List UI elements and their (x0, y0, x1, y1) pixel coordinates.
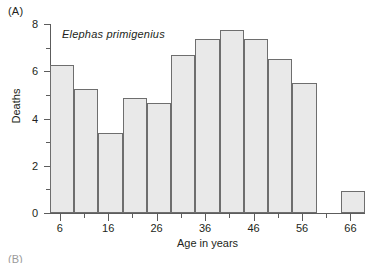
histogram-bar (171, 55, 195, 213)
histogram-bar (244, 39, 268, 213)
histogram-bar (147, 103, 171, 213)
y-tick-label: 0 (0, 208, 38, 218)
x-tick-major (302, 214, 303, 221)
histogram-bar (268, 59, 292, 213)
histogram-bar (74, 89, 98, 213)
x-tick-major (157, 214, 158, 221)
x-tick-minor (326, 214, 327, 218)
y-tick-label: 6 (0, 66, 38, 76)
histogram-bar (195, 39, 219, 213)
x-axis-line (50, 213, 365, 214)
histogram-bar (341, 191, 365, 213)
histogram-bar (123, 98, 147, 213)
y-tick-label: 8 (0, 19, 38, 29)
panel-label-next: (B) (8, 253, 23, 263)
x-tick-major (60, 214, 61, 221)
x-tick-major (254, 214, 255, 221)
histogram-bar (50, 65, 74, 213)
x-tick-minor (229, 214, 230, 218)
x-tick-label: 6 (40, 222, 80, 234)
histogram-bar (98, 133, 122, 213)
species-title: Elephas primigenius (62, 28, 165, 40)
x-tick-label: 46 (234, 222, 274, 234)
x-tick-label: 36 (185, 222, 225, 234)
x-tick-label: 16 (88, 222, 128, 234)
x-axis-label: Age in years (50, 237, 365, 249)
x-tick-minor (278, 214, 279, 218)
y-axis-label: Deaths (10, 66, 22, 146)
y-tick-label: 2 (0, 161, 38, 171)
histogram-bar (220, 30, 244, 213)
x-tick-major (108, 214, 109, 221)
x-tick-major (205, 214, 206, 221)
x-tick-minor (181, 214, 182, 218)
y-tick-label: 4 (0, 114, 38, 124)
x-tick-label: 66 (330, 222, 370, 234)
x-tick-label: 56 (282, 222, 322, 234)
x-tick-minor (84, 214, 85, 218)
y-tick-major (44, 213, 51, 214)
histogram-plot: Elephas primigenius Deaths Age in years … (0, 0, 375, 240)
x-tick-label: 26 (137, 222, 177, 234)
histogram-bar (292, 83, 316, 213)
y-tick-minor (46, 48, 51, 49)
x-tick-minor (132, 214, 133, 218)
x-tick-major (350, 214, 351, 221)
y-tick-major (44, 24, 51, 25)
